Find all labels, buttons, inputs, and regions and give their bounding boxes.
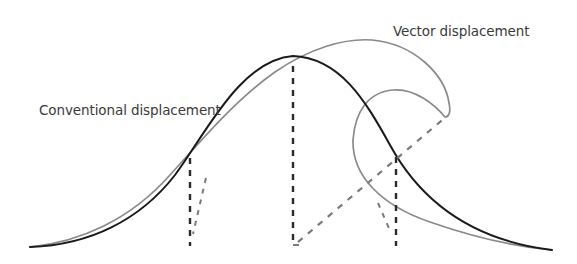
displacement-diagram (0, 0, 577, 264)
vector-dash-right (378, 203, 391, 233)
vector-displacement-label: Vector displacement (393, 23, 529, 39)
vector-dash-diagonal (298, 116, 447, 242)
vector-displaced-curve (30, 40, 552, 250)
conventional-displacement-label: Conventional displacement (39, 102, 221, 118)
vector-dash-left (193, 178, 206, 234)
base-gaussian-curve (30, 56, 552, 250)
